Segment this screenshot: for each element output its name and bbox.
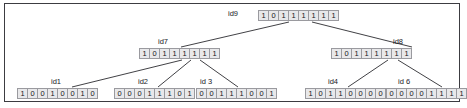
tree-node-id1[interactable]: 10010010 [17,88,98,99]
node-label-id8: id8 [393,37,403,46]
node-label-id2: id2 [138,77,148,86]
diagram-canvas: id910111111id710111111id810111111id11001… [0,0,467,108]
tree-node-id3[interactable]: 00111001 [196,88,277,99]
bit-cell: 1 [266,88,277,99]
bit-cell: 1 [328,10,339,21]
tree-node-id8[interactable]: 10111111 [331,48,412,59]
node-label-id9: id9 [228,9,238,18]
node-label-id6: id 6 [398,77,410,86]
tree-node-id2[interactable]: 00011101 [114,88,195,99]
node-label-id7: id7 [158,37,168,46]
bit-cell: 0 [375,88,386,99]
node-label-id4: id4 [328,77,338,86]
bit-cell: 1 [456,88,467,99]
bit-cell: 1 [401,48,412,59]
bit-cell: 0 [87,88,98,99]
tree-node-id7[interactable]: 10111111 [139,48,220,59]
tree-node-id4[interactable]: 10110000 [305,88,386,99]
tree-node-id9[interactable]: 10111111 [258,10,339,21]
bit-cell: 1 [209,48,220,59]
node-label-id3: id 3 [200,77,212,86]
tree-node-id6[interactable]: 00001111 [386,88,467,99]
node-label-id1: id1 [51,77,61,86]
bit-cell: 1 [184,88,195,99]
